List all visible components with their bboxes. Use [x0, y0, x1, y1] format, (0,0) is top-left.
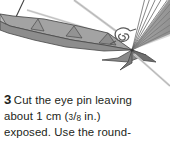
measurement-fraction: 3/8	[69, 110, 82, 122]
caption-line-3: exposed. Use the round-	[4, 125, 168, 141]
caption-line-2-suffix: in.)	[81, 110, 101, 122]
radiating-fan	[132, 0, 170, 50]
fraction-denominator: 8	[76, 114, 81, 123]
fraction-numerator: 3	[69, 113, 74, 122]
caption-line-3-text: exposed. Use the round-	[4, 126, 131, 138]
caption-line-2-prefix: about 1 cm (	[4, 110, 69, 122]
caption-line-1: 3Cut the eye pin leaving	[4, 92, 168, 109]
caption-line-1-text: Cut the eye pin leaving	[14, 94, 132, 106]
folded-gray-band	[0, 14, 156, 70]
instruction-page: 3Cut the eye pin leaving about 1 cm (3/8…	[0, 0, 170, 144]
caption-line-2: about 1 cm (3/8 in.)	[4, 109, 168, 126]
step-number: 3	[4, 92, 14, 107]
eye-pin-wire-craft-diagram	[0, 0, 170, 90]
step-caption: 3Cut the eye pin leaving about 1 cm (3/8…	[4, 92, 168, 141]
diagram-canvas	[0, 0, 170, 90]
